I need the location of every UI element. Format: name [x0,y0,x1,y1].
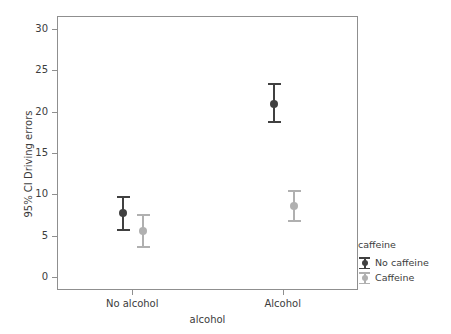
x-axis-tick-label: Alcohol [223,297,343,310]
y-axis-tick: 30 [0,29,57,30]
data-point-marker [119,209,127,217]
error-bar-cap-upper [137,214,150,216]
y-axis-tick: 20 [0,112,57,113]
y-axis-tick-label: 25 [35,63,48,76]
error-bar-marker-icon [358,270,371,285]
error-bar-marker-icon [358,255,371,270]
y-axis-tick: 5 [0,236,57,237]
y-axis-tick-label: 20 [35,105,48,118]
legend-entry[interactable]: No caffeine [358,255,451,270]
y-axis-tick-label: 0 [42,270,48,283]
legend-entry[interactable]: Caffeine [358,270,451,285]
y-axis-tick: 15 [0,153,57,154]
y-axis-tick-label: 5 [42,229,48,242]
error-bar-cap-upper [288,190,301,192]
y-axis-title: 95% CI Driving errors [23,94,35,234]
error-bar-cap-lower [268,121,281,123]
error-bar-cap-upper [117,196,130,198]
error-bar-cap-upper [268,83,281,85]
data-point-marker [290,202,298,210]
error-bar-cap-lower [137,246,150,248]
y-axis-tick-label: 10 [35,187,48,200]
x-axis-tick-label: No alcohol [72,297,192,310]
x-axis-title: alcohol [57,313,358,326]
x-axis-tick-mark [132,290,133,295]
data-point-marker [270,100,278,108]
data-point-marker [139,227,147,235]
y-axis-tick-label: 15 [35,146,48,159]
legend-entries: No caffeineCaffeine [358,255,451,285]
legend-entry-label: No caffeine [375,256,429,269]
error-bar-cap-lower [117,229,130,231]
x-axis-tick-mark [283,290,284,295]
legend-entry-label: Caffeine [375,271,414,284]
plot-area [57,16,358,290]
y-axis-tick-label: 30 [35,22,48,35]
legend: caffeine No caffeineCaffeine [358,238,451,285]
error-bar-chart: 95% CI Driving errors 302520151050 No al… [0,0,451,334]
y-axis-tick: 10 [0,194,57,195]
legend-title: caffeine [358,238,451,251]
error-bar-cap-lower [288,220,301,222]
y-axis-tick: 25 [0,70,57,71]
y-axis-tick: 0 [0,277,57,278]
